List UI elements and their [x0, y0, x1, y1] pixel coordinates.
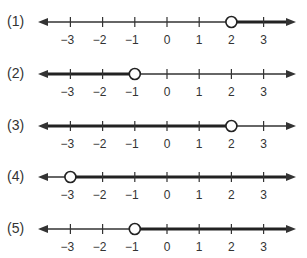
- open-circle-icon: [129, 224, 140, 235]
- number-line: −3−2−10123: [0, 207, 307, 258]
- right-arrow-icon: [286, 173, 296, 181]
- open-circle-icon: [226, 17, 237, 28]
- tick-label: −1: [125, 240, 139, 254]
- tick-label: −2: [93, 137, 107, 151]
- tick-label: 2: [228, 85, 235, 99]
- tick-label: −2: [93, 240, 107, 254]
- tick-label: 1: [196, 33, 203, 47]
- number-line-option-2[interactable]: (2)−3−2−10123: [0, 52, 307, 104]
- left-arrow-icon: [38, 122, 48, 130]
- right-arrow-icon: [286, 18, 296, 26]
- tick-label: 3: [260, 33, 267, 47]
- left-arrow-icon: [38, 225, 48, 233]
- number-line: −3−2−10123: [0, 52, 307, 104]
- tick-label: 3: [260, 240, 267, 254]
- open-circle-icon: [129, 69, 140, 80]
- number-line-option-3[interactable]: (3)−3−2−10123: [0, 104, 307, 156]
- left-arrow-icon: [38, 70, 48, 78]
- tick-label: −1: [125, 137, 139, 151]
- tick-label: −3: [61, 240, 75, 254]
- tick-label: 2: [228, 33, 235, 47]
- number-line-option-1[interactable]: (1)−3−2−10123: [0, 0, 307, 52]
- tick-label: −1: [125, 188, 139, 202]
- tick-label: 0: [164, 188, 171, 202]
- tick-label: −1: [125, 33, 139, 47]
- tick-label: 0: [164, 33, 171, 47]
- tick-label: 0: [164, 240, 171, 254]
- tick-label: 0: [164, 85, 171, 99]
- right-arrow-icon: [286, 70, 296, 78]
- tick-label: 2: [228, 240, 235, 254]
- right-arrow-icon: [286, 122, 296, 130]
- tick-label: 3: [260, 137, 267, 151]
- tick-label: 3: [260, 85, 267, 99]
- tick-label: −2: [93, 188, 107, 202]
- tick-label: −3: [61, 85, 75, 99]
- tick-label: 1: [196, 188, 203, 202]
- tick-label: −2: [93, 85, 107, 99]
- tick-label: −1: [125, 85, 139, 99]
- tick-label: 1: [196, 240, 203, 254]
- tick-label: −3: [61, 33, 75, 47]
- tick-label: −2: [93, 33, 107, 47]
- tick-label: 1: [196, 137, 203, 151]
- left-arrow-icon: [38, 173, 48, 181]
- tick-label: 2: [228, 137, 235, 151]
- number-line: −3−2−10123: [0, 155, 307, 207]
- tick-label: −3: [61, 188, 75, 202]
- number-line-option-5[interactable]: (5)−3−2−10123: [0, 207, 307, 258]
- number-line: −3−2−10123: [0, 0, 307, 52]
- number-line-option-4[interactable]: (4)−3−2−10123: [0, 155, 307, 207]
- right-arrow-icon: [286, 225, 296, 233]
- open-circle-icon: [65, 172, 76, 183]
- tick-label: −3: [61, 137, 75, 151]
- tick-label: 2: [228, 188, 235, 202]
- left-arrow-icon: [38, 18, 48, 26]
- number-line: −3−2−10123: [0, 104, 307, 156]
- tick-label: 1: [196, 85, 203, 99]
- tick-label: 3: [260, 188, 267, 202]
- open-circle-icon: [226, 121, 237, 132]
- tick-label: 0: [164, 137, 171, 151]
